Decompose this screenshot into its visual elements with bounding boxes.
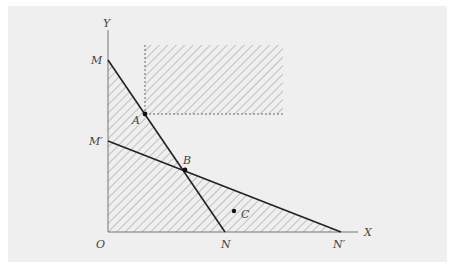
point-B-dot bbox=[183, 168, 188, 173]
point-B-label: B bbox=[182, 154, 191, 167]
point-A-label: A bbox=[131, 114, 140, 127]
y-axis-label: Y bbox=[103, 17, 112, 30]
point-Mprime-label: M′ bbox=[88, 135, 103, 148]
upper-region-hatch bbox=[145, 45, 283, 114]
origin-label: O bbox=[96, 238, 105, 251]
point-N-label: N bbox=[220, 238, 231, 251]
point-C-label: C bbox=[241, 208, 250, 221]
point-C-dot bbox=[232, 209, 236, 213]
lp-diagram: Y X O M M′ N N′ A B C bbox=[0, 0, 450, 269]
x-axis-label: X bbox=[363, 226, 373, 239]
point-Nprime-label: N′ bbox=[332, 238, 346, 251]
point-A-dot bbox=[143, 112, 148, 117]
point-M-label: M bbox=[90, 54, 103, 67]
